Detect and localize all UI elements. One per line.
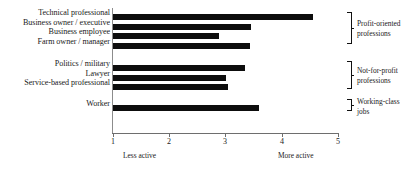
x-axis-tick-label: 5 xyxy=(328,137,348,146)
category-label: Service-based professional xyxy=(0,79,110,87)
group-label-line2: jobs xyxy=(357,107,369,116)
group-bracket xyxy=(347,99,352,111)
group-label-line2: professions xyxy=(357,29,391,38)
category-label: Business owner / executive xyxy=(0,19,110,27)
group-label: Working-class jobs xyxy=(357,97,400,116)
bar xyxy=(113,75,226,81)
group-bracket xyxy=(347,12,352,44)
group-bracket xyxy=(347,61,352,89)
group-label: Profit-oriented professions xyxy=(357,19,401,38)
axis-caption-low: Less active xyxy=(123,152,156,160)
category-label: Worker xyxy=(0,100,110,108)
group-label: Not-for-profit professions xyxy=(357,66,398,85)
category-label-column: Technical professional Business owner / … xyxy=(0,0,110,140)
category-label: Technical professional xyxy=(0,9,110,17)
bar xyxy=(113,105,259,111)
y-axis-line xyxy=(112,8,113,133)
group-label-line1: Profit-oriented xyxy=(357,19,401,28)
x-axis-tick-label: 1 xyxy=(103,137,123,146)
category-label: Politics / military xyxy=(0,60,110,68)
axis-caption-high: More active xyxy=(278,152,314,160)
bar-chart: Technical professional Business owner / … xyxy=(0,0,409,172)
bar xyxy=(113,65,245,71)
bar xyxy=(113,14,313,20)
bar xyxy=(113,33,219,39)
x-axis-tick-label: 4 xyxy=(272,137,292,146)
bar xyxy=(113,84,228,90)
bar xyxy=(113,43,250,49)
plot-area xyxy=(113,8,338,133)
category-label: Business employee xyxy=(0,28,110,36)
x-axis-tick-label: 2 xyxy=(159,137,179,146)
group-label-line2: professions xyxy=(357,76,391,85)
group-label-line1: Working-class xyxy=(357,97,400,106)
category-label: Lawyer xyxy=(0,70,110,78)
category-label: Farm owner / manager xyxy=(0,38,110,46)
x-axis-tick-label: 3 xyxy=(215,137,235,146)
bar xyxy=(113,24,251,30)
group-label-line1: Not-for-profit xyxy=(357,66,398,75)
